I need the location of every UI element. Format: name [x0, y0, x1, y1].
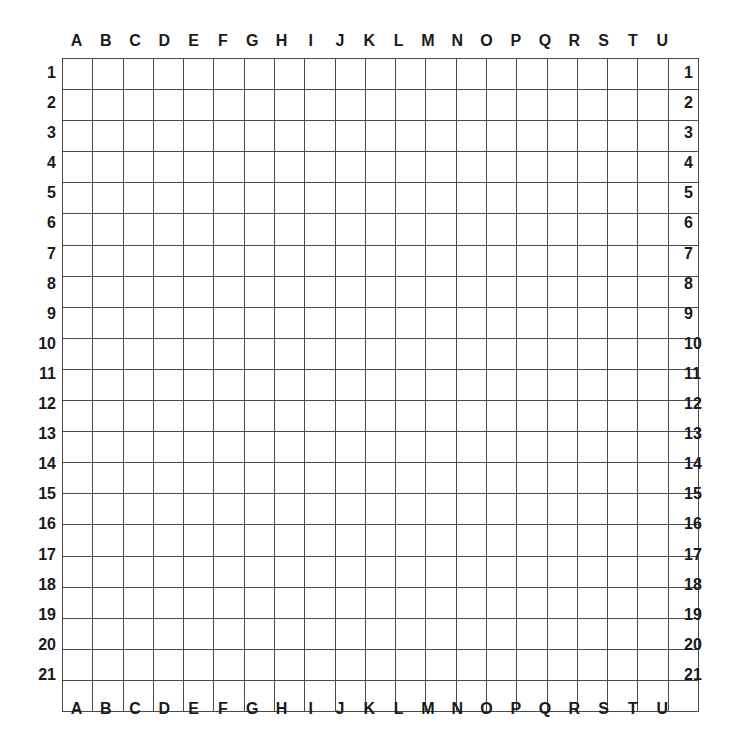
grid-cell-Q8[interactable]: [547, 276, 577, 307]
grid-cell-I5[interactable]: [305, 183, 335, 214]
grid-cell-D20[interactable]: [153, 649, 183, 680]
grid-cell-N10[interactable]: [456, 338, 486, 369]
grid-cell-L17[interactable]: [396, 556, 426, 587]
grid-cell-A7[interactable]: [63, 245, 93, 276]
grid-cell-E19[interactable]: [184, 618, 214, 649]
grid-cell-E14[interactable]: [184, 463, 214, 494]
grid-cell-B12[interactable]: [93, 401, 123, 432]
grid-cell-N16[interactable]: [456, 525, 486, 556]
grid-cell-G18[interactable]: [244, 587, 274, 618]
grid-cell-M9[interactable]: [426, 307, 456, 338]
grid-cell-O10[interactable]: [486, 338, 516, 369]
grid-cell-M10[interactable]: [426, 338, 456, 369]
grid-cell-C18[interactable]: [123, 587, 153, 618]
grid-cell-I10[interactable]: [305, 338, 335, 369]
grid-cell-K3[interactable]: [365, 121, 395, 152]
grid-cell-M5[interactable]: [426, 183, 456, 214]
grid-cell-G2[interactable]: [244, 90, 274, 121]
grid-cell-O11[interactable]: [486, 369, 516, 400]
grid-cell-M1[interactable]: [426, 59, 456, 90]
grid-cell-K1[interactable]: [365, 59, 395, 90]
grid-cell-B8[interactable]: [93, 276, 123, 307]
grid-cell-D1[interactable]: [153, 59, 183, 90]
grid-cell-C4[interactable]: [123, 152, 153, 183]
grid-cell-S7[interactable]: [608, 245, 638, 276]
grid-cell-R3[interactable]: [577, 121, 607, 152]
grid-cell-N6[interactable]: [456, 214, 486, 245]
grid-cell-P10[interactable]: [517, 338, 547, 369]
grid-cell-D15[interactable]: [153, 494, 183, 525]
grid-cell-P4[interactable]: [517, 152, 547, 183]
grid-cell-I2[interactable]: [305, 90, 335, 121]
grid-cell-P16[interactable]: [517, 525, 547, 556]
grid-cell-M7[interactable]: [426, 245, 456, 276]
grid-cell-J20[interactable]: [335, 649, 365, 680]
grid-cell-F11[interactable]: [214, 369, 244, 400]
grid-cell-G6[interactable]: [244, 214, 274, 245]
grid-cell-E3[interactable]: [184, 121, 214, 152]
grid-cell-F17[interactable]: [214, 556, 244, 587]
grid-cell-L14[interactable]: [396, 463, 426, 494]
grid-cell-H7[interactable]: [274, 245, 304, 276]
grid-cell-L16[interactable]: [396, 525, 426, 556]
grid-cell-R5[interactable]: [577, 183, 607, 214]
grid-cell-G3[interactable]: [244, 121, 274, 152]
grid-cell-F2[interactable]: [214, 90, 244, 121]
grid-cell-H8[interactable]: [274, 276, 304, 307]
grid-cell-L10[interactable]: [396, 338, 426, 369]
grid-cell-S4[interactable]: [608, 152, 638, 183]
grid-cell-F4[interactable]: [214, 152, 244, 183]
grid-cell-C8[interactable]: [123, 276, 153, 307]
grid-cell-C2[interactable]: [123, 90, 153, 121]
grid-cell-F16[interactable]: [214, 525, 244, 556]
grid-cell-T5[interactable]: [638, 183, 668, 214]
grid-cell-R10[interactable]: [577, 338, 607, 369]
grid-cell-S10[interactable]: [608, 338, 638, 369]
grid-cell-J4[interactable]: [335, 152, 365, 183]
grid-cell-M16[interactable]: [426, 525, 456, 556]
grid-cell-J12[interactable]: [335, 401, 365, 432]
grid-cell-M8[interactable]: [426, 276, 456, 307]
grid-cell-J10[interactable]: [335, 338, 365, 369]
grid-cell-M4[interactable]: [426, 152, 456, 183]
grid-cell-B10[interactable]: [93, 338, 123, 369]
grid-cell-H19[interactable]: [274, 618, 304, 649]
grid-cell-A3[interactable]: [63, 121, 93, 152]
grid-cell-N18[interactable]: [456, 587, 486, 618]
grid-cell-D4[interactable]: [153, 152, 183, 183]
grid-cell-B13[interactable]: [93, 432, 123, 463]
grid-cell-M17[interactable]: [426, 556, 456, 587]
grid-cell-E15[interactable]: [184, 494, 214, 525]
grid-cell-P1[interactable]: [517, 59, 547, 90]
grid-cell-J1[interactable]: [335, 59, 365, 90]
grid-cell-C13[interactable]: [123, 432, 153, 463]
grid-cell-O19[interactable]: [486, 618, 516, 649]
grid-cell-M14[interactable]: [426, 463, 456, 494]
grid-cell-L2[interactable]: [396, 90, 426, 121]
grid-cell-T19[interactable]: [638, 618, 668, 649]
grid-cell-O14[interactable]: [486, 463, 516, 494]
grid-cell-P11[interactable]: [517, 369, 547, 400]
grid-cell-O3[interactable]: [486, 121, 516, 152]
grid-cell-S5[interactable]: [608, 183, 638, 214]
grid-cell-H2[interactable]: [274, 90, 304, 121]
grid-cell-E6[interactable]: [184, 214, 214, 245]
grid-cell-N2[interactable]: [456, 90, 486, 121]
grid-cell-K10[interactable]: [365, 338, 395, 369]
grid-cell-M18[interactable]: [426, 587, 456, 618]
grid-cell-E10[interactable]: [184, 338, 214, 369]
grid-cell-T7[interactable]: [638, 245, 668, 276]
grid-cell-H15[interactable]: [274, 494, 304, 525]
grid-cell-I9[interactable]: [305, 307, 335, 338]
grid-cell-P15[interactable]: [517, 494, 547, 525]
grid-cell-I8[interactable]: [305, 276, 335, 307]
grid-cell-J5[interactable]: [335, 183, 365, 214]
grid-cell-H17[interactable]: [274, 556, 304, 587]
grid-cell-L9[interactable]: [396, 307, 426, 338]
grid-cell-O9[interactable]: [486, 307, 516, 338]
grid-cell-Q2[interactable]: [547, 90, 577, 121]
grid-cell-D9[interactable]: [153, 307, 183, 338]
grid-cell-D5[interactable]: [153, 183, 183, 214]
grid-cell-M20[interactable]: [426, 649, 456, 680]
grid-cell-P8[interactable]: [517, 276, 547, 307]
